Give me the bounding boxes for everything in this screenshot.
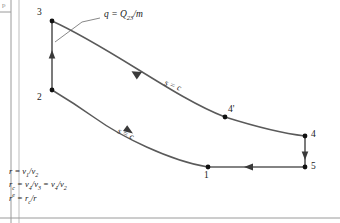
state-label-4-prime: 4' [228,105,234,115]
heat-input-tail: /m [133,9,143,19]
legend-row-expansion-ratio: re = rc/r [9,192,67,207]
heat-input-leader [55,18,100,42]
expansion-ratio-formula: re = rc/r [9,193,37,203]
process-1-to-2-isentropic [52,90,208,167]
legend-row-cutoff-ratio: rc = v4/v3 = v4/v2 [9,179,67,192]
state-label-5: 5 [311,162,316,172]
process-4-to-5 [302,136,309,167]
pv-diagram-figure: p 3 2 1 4' 4 5 q = Q23/m s = c s = c r =… [0,0,340,223]
ratio-definitions-legend: r = v1/v2 rc = v4/v3 = v4/v2 re = rc/r [9,166,67,206]
axis-label-pressure: p [2,2,6,9]
cutoff-ratio-formula: rc = v4/v3 = v4/v2 [9,179,67,189]
state-label-1: 1 [204,171,209,181]
process-2-to-3 [49,21,56,90]
state-label-2: 2 [37,93,42,103]
compression-ratio-formula: r = v1/v2 [9,166,38,176]
heat-input-base: q = Q [104,9,127,19]
process-5-to-1 [208,164,305,171]
heat-input-label: q = Q23/m [104,10,143,21]
process-3-to-4-isentropic [52,21,305,136]
state-label-3: 3 [37,8,42,18]
state-label-4: 4 [311,130,316,140]
legend-row-compression-ratio: r = v1/v2 [9,166,67,179]
